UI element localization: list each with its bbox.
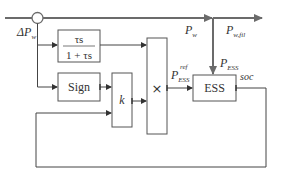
- multiplier-label: ×: [147, 78, 167, 98]
- p-ess-label: PESS: [220, 57, 239, 69]
- gain-label: k: [112, 73, 132, 127]
- soc-label: soc: [240, 72, 253, 82]
- pw-label: Pw: [185, 24, 197, 36]
- summing-junction: [32, 13, 43, 24]
- highpass-numerator: τs: [58, 31, 100, 46]
- pw-fil-label: Pw,fil: [226, 24, 245, 36]
- highpass-denominator: 1 + τs: [58, 47, 100, 62]
- input-branch-lines: [38, 24, 58, 88]
- ess-label: ESS: [193, 75, 236, 101]
- input-delta-pw-label: ΔPw: [17, 26, 36, 38]
- p-ess-ref-label: PESSref: [171, 69, 190, 81]
- sign-label: Sign: [58, 73, 100, 101]
